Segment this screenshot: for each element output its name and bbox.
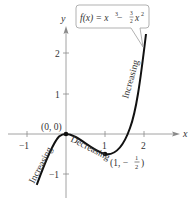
point-label-origin: (0, 0) <box>41 122 62 133</box>
x-tick-label: 2 <box>141 141 146 151</box>
y-tick-label: −1 <box>49 170 59 180</box>
svg-text:2: 2 <box>141 11 144 17</box>
svg-text:): ) <box>141 158 144 169</box>
y-tick-label: 1 <box>55 90 60 100</box>
svg-text:2: 2 <box>130 18 133 24</box>
svg-text:2: 2 <box>135 163 138 170</box>
svg-text:3: 3 <box>130 10 133 16</box>
x-axis-label: x <box>182 128 188 139</box>
function-callout: f(x) = x 3 − 3 2 x 2 <box>76 5 149 47</box>
function-graph: x y −1 1 2 2 1 −1 (0, 0) (1, − 1 2 ) Inc… <box>0 0 193 204</box>
function-curve <box>37 34 146 185</box>
svg-text:x: x <box>134 13 140 23</box>
y-tick-label: 2 <box>55 49 60 59</box>
x-tick-label: −1 <box>19 141 29 151</box>
point-origin <box>64 132 69 137</box>
svg-text:1: 1 <box>135 154 138 161</box>
point-label-local-min: (1, − 1 2 ) <box>110 154 144 170</box>
svg-text:f(x) = x: f(x) = x <box>80 13 109 24</box>
svg-text:(1, −: (1, − <box>110 158 128 169</box>
svg-text:−: − <box>117 13 122 23</box>
y-axis-label: y <box>60 13 66 24</box>
